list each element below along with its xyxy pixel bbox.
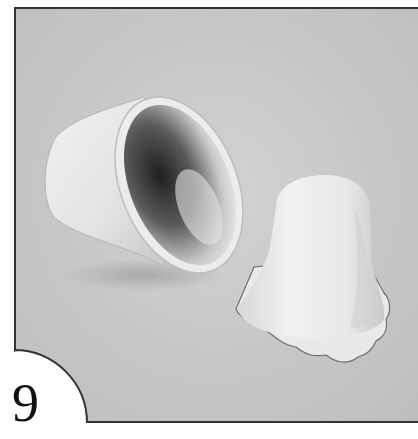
step-photo: [14, 7, 418, 423]
step-number: 9: [12, 376, 39, 430]
